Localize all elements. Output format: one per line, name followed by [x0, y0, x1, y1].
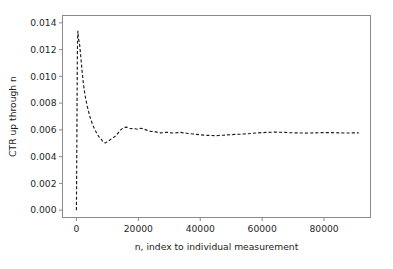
- x-tick-label: 80000: [309, 223, 338, 234]
- chart-figure: 020000400006000080000 0.0000.0020.0040.0…: [0, 0, 393, 269]
- y-axis-label: CTR up through n: [7, 76, 18, 157]
- y-tick-label: 0.010: [30, 71, 56, 82]
- y-tick-label: 0.014: [30, 17, 56, 28]
- y-tick-label: 0.004: [30, 151, 56, 162]
- chart-canvas: 020000400006000080000 0.0000.0020.0040.0…: [0, 0, 393, 269]
- x-axis-label: n, index to individual measurement: [135, 241, 299, 252]
- y-tick-label: 0.000: [30, 204, 56, 215]
- y-tick-label: 0.006: [30, 124, 56, 135]
- y-tick-label: 0.008: [30, 97, 56, 108]
- x-tick-label: 60000: [248, 223, 277, 234]
- y-tick-label: 0.012: [30, 44, 56, 55]
- x-tick-label: 40000: [186, 223, 215, 234]
- y-tick-label: 0.002: [30, 178, 56, 189]
- x-tick-label: 20000: [124, 223, 153, 234]
- x-tick-label: 0: [73, 223, 79, 234]
